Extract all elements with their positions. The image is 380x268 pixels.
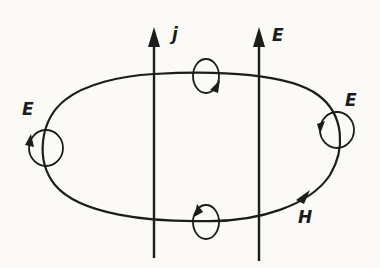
- left-loop-label: E: [22, 101, 34, 118]
- diagram-canvas: j E E E H: [0, 0, 380, 268]
- right-loop-label: E: [345, 92, 357, 109]
- field-arrow: [253, 27, 265, 261]
- current-arrow: [148, 27, 160, 258]
- up-arrow-icon: [148, 27, 160, 47]
- loop-top: [193, 59, 220, 93]
- field-label: E: [272, 27, 284, 44]
- diagram-figure: [0, 0, 380, 268]
- h-loop: [43, 73, 340, 221]
- up-arrow-icon: [253, 27, 265, 47]
- current-label: j: [172, 26, 178, 43]
- h-loop-label: H: [298, 209, 312, 226]
